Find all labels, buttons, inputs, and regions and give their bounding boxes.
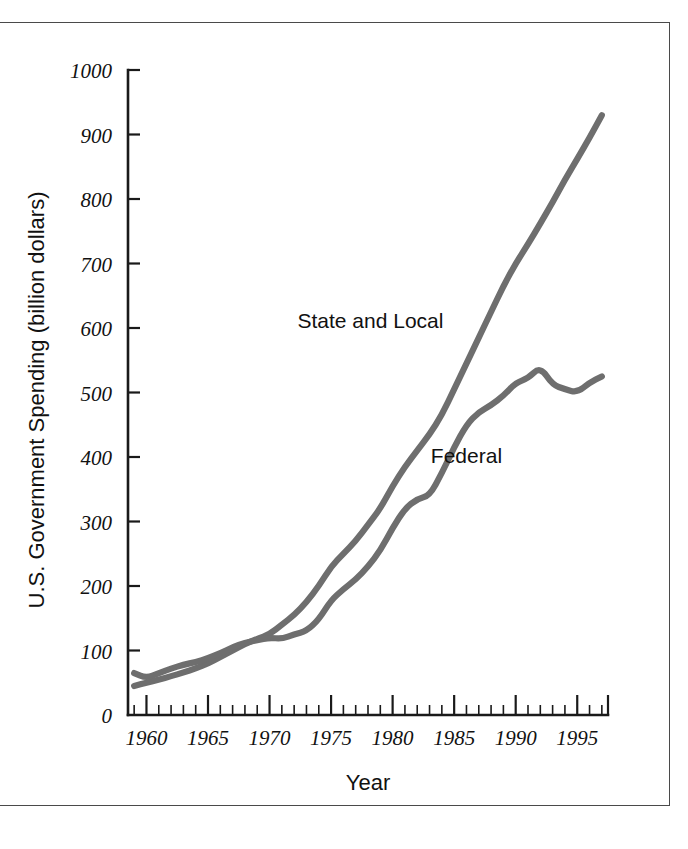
x-tick-label: 1975 (310, 726, 352, 750)
x-axis-minor-ticks (134, 705, 602, 715)
y-tick-label: 100 (81, 640, 113, 664)
y-tick-label: 300 (80, 511, 113, 535)
x-axis-title: Year (346, 770, 390, 795)
y-tick-label: 0 (102, 704, 113, 728)
x-tick-label: 1990 (495, 726, 538, 750)
x-tick-label: 1985 (433, 726, 475, 750)
series-annotations: State and LocalFederal (297, 309, 502, 467)
x-tick-label: 1980 (372, 726, 415, 750)
y-tick-label: 500 (81, 382, 113, 406)
y-tick-label: 700 (81, 253, 113, 277)
series-label-federal: Federal (431, 444, 502, 467)
line-chart: 01002003004005006007008009001000 1960196… (0, 0, 688, 849)
x-axis-tick-labels: 19601965197019751980198519901995 (125, 726, 598, 750)
x-tick-label: 1965 (187, 726, 229, 750)
y-tick-label: 600 (81, 317, 113, 341)
y-tick-label: 900 (81, 124, 113, 148)
y-axis-tick-labels: 01002003004005006007008009001000 (70, 59, 113, 728)
x-axis-major-ticks (146, 695, 608, 715)
y-tick-label: 400 (81, 446, 113, 470)
y-tick-label: 1000 (70, 59, 113, 83)
x-tick-label: 1970 (249, 726, 292, 750)
y-tick-label: 800 (81, 188, 113, 212)
series-line-state-and-local (134, 115, 602, 686)
chart-series (134, 115, 602, 686)
y-tick-label: 200 (81, 575, 113, 599)
x-tick-label: 1995 (556, 726, 598, 750)
chart-axes (128, 70, 608, 715)
y-axis-ticks (128, 70, 140, 651)
y-axis-title: U.S. Government Spending (billion dollar… (24, 192, 49, 609)
x-tick-label: 1960 (125, 726, 168, 750)
series-label-state-and-local: State and Local (297, 309, 443, 332)
